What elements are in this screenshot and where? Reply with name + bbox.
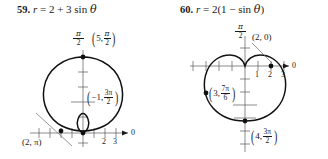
x-tick-label-3-60: 3 [281, 70, 285, 79]
figure-page: 59. r = 2 + 3 sin θ [0, 0, 328, 159]
problem-59: 59. r = 2 + 3 sin θ [0, 0, 164, 159]
x-tick-label-2-60: 2 [268, 70, 272, 79]
x-tick-label-3-59: 3 [113, 137, 117, 146]
point-label-minus1-3pi-over-2: (−1,3π2) [86, 89, 119, 106]
polar-axis-label-59: 0 [131, 128, 135, 137]
polar-axis-label-60: 0 [292, 61, 296, 70]
point-2-0 [269, 64, 274, 69]
vertical-axis-label-59: π 2 [73, 30, 84, 47]
problem-60: 60. r = 2(1 − sin θ) [164, 0, 328, 159]
point-label-2-pi: (2, π) [22, 137, 42, 147]
point-4-3pi-over-2 [243, 119, 248, 124]
point-label-3-7pi-over-6: (3,7π6) [208, 85, 236, 102]
point-2-pi [59, 129, 64, 134]
leader-line-2-0 [252, 43, 272, 63]
vertical-axis-label-60: π 2 [235, 23, 246, 40]
point-label-2-0: (2, 0) [252, 32, 272, 42]
point-label-5-pi-over-2: (5,π2) [91, 30, 116, 47]
problem-59-graph [0, 0, 164, 159]
problem-60-graph [164, 0, 328, 159]
point-5-pi-over-2 [81, 55, 86, 60]
point-origin-59 [81, 131, 86, 136]
point-label-4-3pi-over-2: (4,3π2) [250, 128, 278, 145]
polar-axis-arrow-59 [122, 131, 128, 136]
polar-axis-arrow-60 [283, 64, 289, 69]
x-tick-label-1-60: 1 [255, 70, 259, 79]
x-tick-label-2-59: 2 [102, 137, 106, 146]
